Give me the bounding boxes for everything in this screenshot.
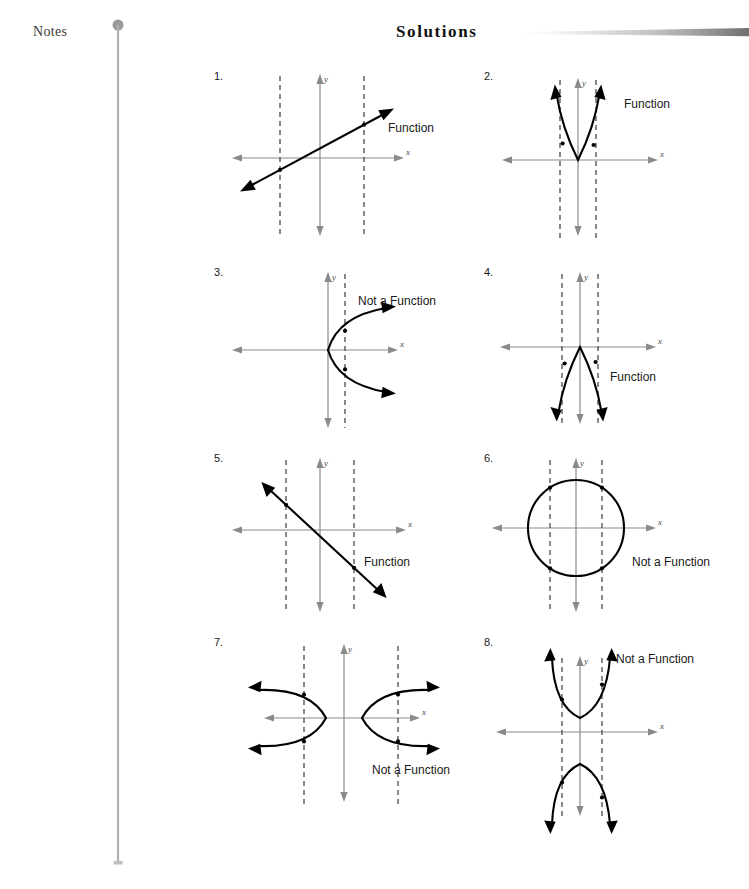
intersection-dot <box>548 566 552 570</box>
x-axis-arrow-right <box>648 156 658 163</box>
intersection-dot <box>284 503 288 507</box>
y-axis-arrow-up <box>324 272 331 282</box>
intersection-dot <box>563 361 567 365</box>
y-axis-arrow-up <box>576 272 583 282</box>
coordinate-axes: x y <box>232 458 412 612</box>
graph-parabola-down: x y <box>484 262 749 447</box>
answer-label: Function <box>610 370 656 384</box>
problem-8: 8. x y Not a Function <box>484 632 749 847</box>
problem-2: 2. x y Function <box>484 66 749 246</box>
x-axis-arrow-left <box>232 346 242 353</box>
title-rule-decoration <box>505 26 749 40</box>
x-axis-label: x <box>421 707 426 717</box>
intersection-dot <box>302 693 306 697</box>
x-axis-arrow-right <box>648 728 658 735</box>
intersection-dot <box>560 780 564 784</box>
x-axis-label: x <box>657 336 662 346</box>
curve-arrow-right-lower <box>426 744 440 755</box>
curve-arrow-left-upper <box>248 681 262 692</box>
margin-rule-decoration <box>111 18 125 870</box>
y-axis-arrow-down <box>574 226 581 236</box>
problem-3: 3. x y Not a Function <box>214 262 484 447</box>
x-axis-label: x <box>659 721 664 731</box>
intersection-dot <box>600 795 604 799</box>
y-axis-arrow-up <box>340 644 347 654</box>
intersection-dot <box>548 486 552 490</box>
intersection-dot <box>561 141 565 145</box>
graph-hyperbola-horizontal: x y <box>214 632 504 832</box>
coordinate-axes: x y <box>264 644 426 802</box>
intersection-dot <box>594 360 598 364</box>
y-axis-label: y <box>323 458 328 468</box>
curve-arrow-lower-right <box>606 820 617 834</box>
y-axis-label: y <box>331 272 336 282</box>
graph-curve <box>261 482 386 598</box>
intersection-dot <box>600 682 604 686</box>
problem-4: 4. x y Function <box>484 262 749 447</box>
x-axis-arrow-left <box>264 714 274 721</box>
page-title: Solutions <box>396 22 478 42</box>
graph-parabola-right: x y <box>214 262 484 447</box>
answer-label: Not a Function <box>616 652 694 666</box>
y-axis-arrow-up <box>574 78 581 88</box>
x-axis-arrow-right <box>646 343 656 350</box>
x-axis-arrow-left <box>232 526 242 533</box>
curve-arrow-upper-right <box>378 109 394 121</box>
intersection-dot <box>396 693 400 697</box>
x-axis-arrow-left <box>232 154 242 161</box>
curve-arrow-right-upper <box>426 681 440 692</box>
x-axis-label: x <box>405 147 410 157</box>
graph-curve <box>550 347 607 422</box>
x-axis-arrow-right <box>646 524 656 531</box>
coordinate-axes: x y <box>496 656 664 816</box>
intersection-dot <box>560 697 564 701</box>
notes-label: Notes <box>33 24 67 40</box>
graph-curve <box>240 109 394 192</box>
problem-6: 6. x y Not a Function <box>484 448 749 633</box>
x-axis-arrow-left <box>500 343 510 350</box>
intersection-dot <box>343 329 347 333</box>
x-axis-label: x <box>407 519 412 529</box>
x-axis-label: x <box>659 149 664 159</box>
x-axis-label: x <box>657 517 662 527</box>
intersection-dot <box>278 168 282 172</box>
problem-1: 1. x y Function <box>214 66 484 246</box>
coordinate-axes: x y <box>492 458 662 612</box>
y-axis-arrow-down <box>324 418 331 428</box>
x-axis-arrow-right <box>410 714 420 721</box>
y-axis-label: y <box>347 644 352 654</box>
curve-arrow-upper-left <box>544 648 555 662</box>
x-axis-arrow-right <box>396 526 406 533</box>
y-axis-arrow-up <box>576 656 583 666</box>
y-axis-arrow-down <box>576 806 583 816</box>
curve-arrow-lower-right <box>381 387 396 398</box>
curve-arrow-left-lower <box>248 744 262 755</box>
curve-arrow-lower-left <box>240 180 256 192</box>
coordinate-axes: x y <box>232 74 410 236</box>
intersection-dot <box>592 143 596 147</box>
x-axis-arrow-left <box>502 156 512 163</box>
x-axis-arrow-left <box>492 524 502 531</box>
intersection-dot <box>396 739 400 743</box>
graph-circle: x y <box>484 448 749 633</box>
problem-7: 7. x y Not a Function <box>214 632 504 832</box>
answer-label: Function <box>364 555 410 569</box>
curve-arrow-lower-left <box>544 820 555 834</box>
x-axis-arrow-left <box>496 728 506 735</box>
x-axis-label: x <box>399 339 404 349</box>
hyperbola-upper-branch <box>552 658 610 718</box>
graph-line-negative-slope: x y <box>214 448 484 633</box>
y-axis-label: y <box>581 78 586 88</box>
y-axis-arrow-down <box>316 602 323 612</box>
intersection-dot <box>352 566 356 570</box>
y-axis-label: y <box>583 272 588 282</box>
curve-arrow-lower-right <box>373 583 387 598</box>
answer-label: Not a Function <box>632 555 710 569</box>
intersection-dot <box>343 367 347 371</box>
y-axis-label: y <box>583 656 588 666</box>
intersection-dot <box>302 739 306 743</box>
curve-arrow-upper-left <box>261 482 275 497</box>
hyperbola-lower-branch <box>552 764 610 824</box>
x-axis-arrow-right <box>394 154 404 161</box>
answer-label: Function <box>624 97 670 111</box>
